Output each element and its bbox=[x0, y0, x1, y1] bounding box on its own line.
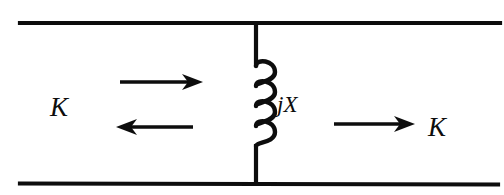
circuit-schematic-canvas: K jX K bbox=[0, 0, 504, 195]
transmitted-wave-arrow bbox=[334, 116, 415, 132]
inductor-coil-icon bbox=[256, 61, 275, 146]
bottom-conductor-line bbox=[20, 184, 498, 185]
reactance-label: jX bbox=[274, 92, 298, 117]
right-current-label: K bbox=[427, 112, 448, 142]
incident-wave-arrow bbox=[120, 74, 203, 90]
circuit-diagram: K jX K bbox=[0, 0, 504, 195]
left-current-label: K bbox=[49, 92, 70, 122]
reflected-wave-arrow bbox=[116, 119, 193, 135]
